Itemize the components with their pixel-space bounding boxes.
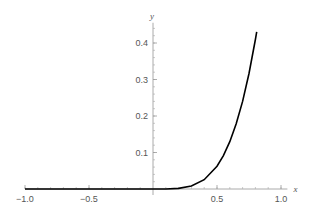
x-tick-label: −1.0 bbox=[16, 194, 34, 204]
y-tick-label: 0.3 bbox=[135, 75, 148, 85]
y-axis-label: y bbox=[149, 11, 154, 21]
y-ticks: 0.10.20.30.4 bbox=[135, 38, 157, 158]
chart: −1.0−0.50.51.0 0.10.20.30.4 x y bbox=[0, 0, 311, 216]
x-axis-label: x bbox=[292, 184, 297, 194]
x-ticks: −1.0−0.50.51.0 bbox=[16, 185, 287, 204]
x-tick-label: 0.5 bbox=[211, 194, 224, 204]
y-tick-label: 0.2 bbox=[135, 111, 148, 121]
y-tick-label: 0.1 bbox=[135, 148, 148, 158]
y-tick-label: 0.4 bbox=[135, 38, 148, 48]
x-tick-label: 1.0 bbox=[275, 194, 288, 204]
x-tick-label: −0.5 bbox=[80, 194, 98, 204]
